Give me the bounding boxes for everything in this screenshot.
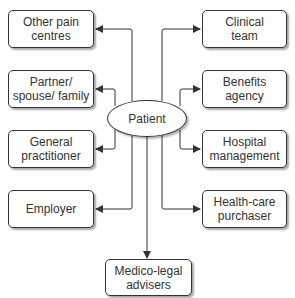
node-medico-legal-advisers: Medico-legal advisers [105, 259, 192, 296]
arrow-to-health-care-purchaser [162, 135, 200, 209]
arrow-to-gp [96, 130, 115, 149]
node-general-practitioner: General practitioner [8, 130, 94, 168]
arrow-to-employer [96, 135, 132, 209]
node-employer: Employer [8, 190, 94, 228]
arrow-to-other-pain-centres [96, 29, 132, 101]
arrow-to-benefits-agency [180, 89, 200, 106]
arrow-to-partner [96, 89, 115, 106]
node-benefits-agency: Benefits agency [202, 70, 287, 108]
node-partner-spouse-family: Partner/ spouse/ family [8, 70, 94, 108]
arrow-to-hospital-management [180, 130, 200, 149]
node-other-pain-centres: Other pain centres [8, 10, 94, 48]
node-health-care-purchaser: Health-care purchaser [202, 190, 287, 228]
arrow-to-clinical-team [162, 29, 200, 101]
patient-node: Patient [107, 100, 187, 137]
node-hospital-management: Hospital management [202, 130, 287, 168]
node-clinical-team: Clinical team [202, 10, 287, 48]
